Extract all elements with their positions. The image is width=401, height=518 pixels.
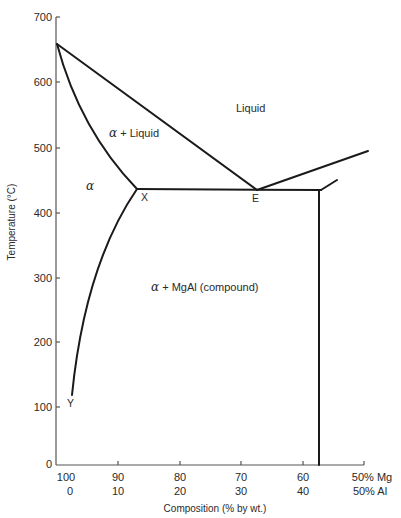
x-tick-labels-al: 0 10 20 30 40 50% Al [67,485,387,497]
y-tick-label: 0 [46,458,52,470]
y-tick-label: 500 [34,142,52,154]
axes [56,17,364,465]
region-label-alpha-liquid: α + Liquid [109,126,159,140]
point-label-x: X [141,191,148,203]
x-tick-label-al: 30 [235,485,247,497]
x-tick-label-mg: 90 [112,471,124,483]
x-tick-label-mg: 100 [57,471,75,483]
x-tick-label-al: 20 [174,485,186,497]
y-tick-label: 700 [34,11,52,23]
x-tick-label-al: 50% Al [353,485,387,497]
compound-stub-line [321,180,337,190]
liquidus-left-line [57,44,257,190]
x-tick-label-mg: 80 [174,471,186,483]
region-label-liquid: Liquid [236,102,265,114]
alpha-liquid-text: + Liquid [117,127,159,139]
y-axis-title: Temperature (°C) [6,184,17,261]
x-tick-labels-mg: 100 90 80 70 60 50% Mg [57,471,392,483]
y-tick-labels: 700 600 500 400 300 200 100 0 [34,11,52,470]
point-label-y: Y [67,397,74,409]
solidus-alpha-curve [57,44,137,189]
x-tick-label-al: 0 [67,485,73,497]
x-tick-label-mg: 70 [235,471,247,483]
solvus-curve [72,189,137,395]
y-tick-label: 300 [34,272,52,284]
phase-diagram-svg: 700 600 500 400 300 200 100 0 Temperatur… [0,0,401,518]
phase-boundaries [57,44,368,465]
alpha-symbol: α [151,280,159,294]
y-tick-label: 600 [34,76,52,88]
x-tick-label-al: 40 [297,485,309,497]
region-label-alpha-compound: α + MgAl (compound) [151,280,258,294]
phase-diagram: 700 600 500 400 300 200 100 0 Temperatur… [0,0,401,518]
y-tick-label: 200 [34,336,52,348]
liquidus-right-line [257,151,368,190]
y-tick-label: 400 [34,207,52,219]
y-tick-label: 100 [34,401,52,413]
x-tick-label-al: 10 [112,485,124,497]
x-axis-title: Composition (% by wt.) [164,503,267,514]
alpha-symbol: α [109,126,117,140]
x-tick-label-mg: 50% Mg [352,471,392,483]
x-tick-label-mg: 60 [297,471,309,483]
eutectic-line [137,189,321,190]
alpha-compound-text: + MgAl (compound) [159,281,258,293]
region-label-alpha: α [86,179,94,193]
point-label-e: E [252,192,259,204]
